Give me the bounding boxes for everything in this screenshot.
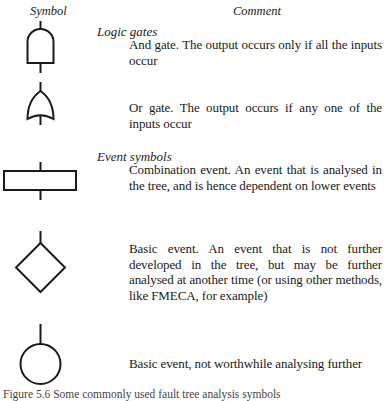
comment-column-header: Comment — [233, 4, 281, 18]
basic-event-diamond-icon — [13, 230, 69, 296]
figure-caption: Figure 5.6 Some commonly used fault tree… — [3, 388, 281, 401]
symbol-column-header: Symbol — [30, 4, 67, 18]
basic-event-diamond-description: Basic event. An event that is not furthe… — [129, 241, 382, 303]
combination-event-rectangle-icon — [3, 161, 79, 201]
basic-event-circle-icon — [18, 324, 64, 386]
and-gate-description: And gate. The output occurs only if all … — [129, 37, 382, 68]
basic-event-circle-description: Basic event, not worthwhile analysing fu… — [129, 356, 382, 372]
combination-event-description: Combination event. An event that is anal… — [129, 162, 382, 193]
or-gate-icon — [26, 81, 56, 135]
and-gate-icon — [26, 20, 56, 74]
or-gate-description: Or gate. The output occurs if any one of… — [129, 100, 382, 131]
